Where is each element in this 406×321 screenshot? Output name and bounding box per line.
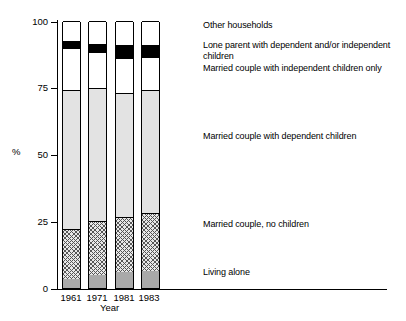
bar-segment-1971-married-couple-with-independent-children-only — [89, 52, 106, 88]
bar-segment-1971-married-couple-with-dependent-children — [89, 88, 106, 222]
legend-item-married-no-children: Married couple, no children — [203, 219, 403, 230]
y-tick-mark-75 — [51, 88, 57, 89]
bar-segment-1961-married-couple-with-dependent-children — [63, 90, 80, 229]
bar-segment-1971-married-couple-no-children — [89, 221, 106, 274]
y-tick-label-75: 75 — [18, 83, 48, 93]
bar-segment-1961-married-couple-with-independent-children-only — [63, 48, 80, 91]
bar-segment-1981-married-couple-no-children — [116, 217, 133, 272]
bar-segment-1983-living-alone — [142, 271, 159, 288]
y-axis-title: % — [12, 147, 20, 157]
y-tick-label-0: 0 — [18, 284, 48, 294]
y-tick-label-100: 100 — [18, 17, 48, 27]
bar-column-1961 — [62, 22, 81, 289]
legend-item-married-independent-children: Married couple with independent children… — [203, 63, 403, 74]
bar-segment-1981-married-couple-with-independent-children-only — [116, 58, 133, 93]
bar-segment-1961-married-couple-no-children — [63, 229, 80, 278]
bar-segment-1981-other-households — [116, 21, 133, 45]
bar-segment-1971-living-alone — [89, 275, 106, 288]
y-tick-label-25: 25 — [18, 217, 48, 227]
bar-segment-1961-other-households — [63, 21, 80, 41]
stacked-bar-chart: 100 75 50 25 0 % Year 1961 1971 1981 198… — [0, 0, 406, 321]
y-tick-mark-100 — [51, 22, 57, 23]
y-tick-mark-25 — [51, 222, 57, 223]
bar-column-1983 — [141, 22, 160, 289]
y-axis-line — [57, 20, 58, 290]
x-tick-label-1983: 1983 — [129, 293, 169, 303]
legend-item-married-dependent-children: Married couple with dependent children — [203, 131, 403, 142]
bar-segment-1971-lone-parent-with-dependent-and-or-independent-children — [89, 44, 106, 52]
bar-column-1971 — [88, 22, 107, 289]
legend-item-living-alone: Living alone — [203, 267, 403, 278]
y-tick-mark-0 — [51, 289, 57, 290]
bar-segment-1961-living-alone — [63, 279, 80, 288]
bar-segment-1983-married-couple-with-independent-children-only — [142, 57, 159, 90]
y-tick-mark-50 — [51, 155, 57, 156]
bar-segment-1981-lone-parent-with-dependent-and-or-independent-children — [116, 45, 133, 58]
bar-segment-1983-other-households — [142, 21, 159, 45]
legend-item-other-households: Other households — [203, 20, 403, 31]
bar-segment-1961-lone-parent-with-dependent-and-or-independent-children — [63, 41, 80, 48]
bar-segment-1983-lone-parent-with-dependent-and-or-independent-children — [142, 45, 159, 57]
bar-segment-1983-married-couple-with-dependent-children — [142, 90, 159, 213]
x-axis-line — [57, 289, 387, 290]
bar-segment-1981-married-couple-with-dependent-children — [116, 93, 133, 217]
legend-item-lone-parent: Lone parent with dependent and/or indepe… — [203, 40, 403, 61]
bar-segment-1981-living-alone — [116, 272, 133, 288]
bar-segment-1971-other-households — [89, 21, 106, 44]
bar-column-1981 — [115, 22, 134, 289]
x-axis-title: Year — [100, 303, 119, 313]
y-tick-label-50: 50 — [18, 150, 48, 160]
bar-segment-1983-married-couple-no-children — [142, 213, 159, 270]
